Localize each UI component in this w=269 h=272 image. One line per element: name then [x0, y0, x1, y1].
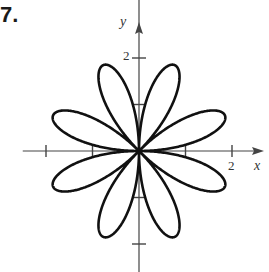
y-tick-label-2: 2: [123, 48, 130, 63]
x-axis-label: x: [253, 158, 261, 173]
polar-rose-plot: y x 2 2: [0, 0, 269, 272]
axes: [23, 0, 264, 272]
y-axis-label: y: [118, 14, 127, 29]
x-tick-label-2: 2: [228, 158, 235, 173]
